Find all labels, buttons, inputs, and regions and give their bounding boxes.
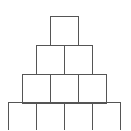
pyramid-block [65,103,93,131]
pyramid-block [9,103,37,131]
pyramid-row-1 [51,17,79,46]
pyramid-block [65,46,93,75]
pyramid-block [51,75,79,104]
pyramid-block [51,17,79,46]
pyramid-row-4 [9,103,121,131]
pyramid-block [37,103,65,131]
pyramid-block [23,75,51,104]
pyramid-row-2 [37,46,93,75]
pyramid-block [37,46,65,75]
pyramid-row-3 [23,75,107,104]
pyramid-block [79,75,107,104]
pyramid-block [93,103,121,131]
block-pyramid-diagram [0,0,131,130]
